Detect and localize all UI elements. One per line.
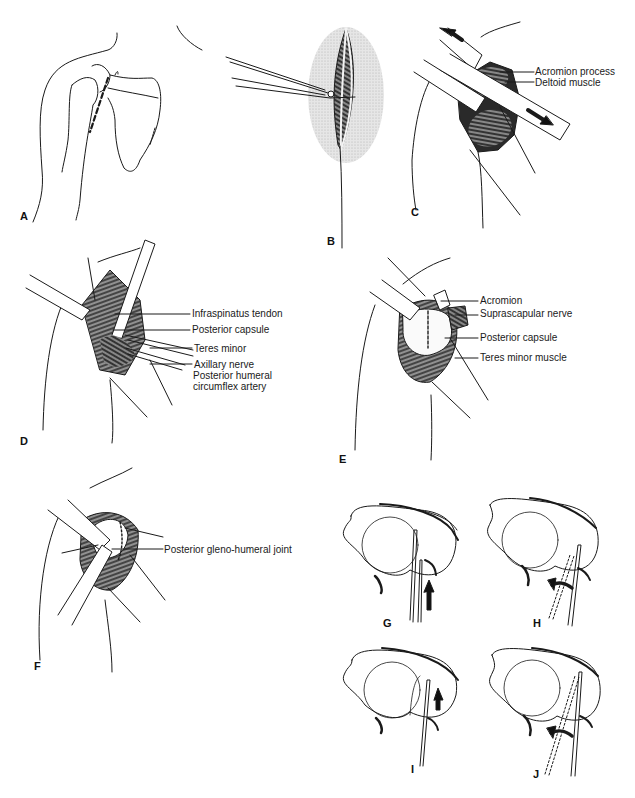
panel-h-drawing: [488, 498, 599, 626]
panel-label-g: G: [383, 617, 392, 629]
panel-d-drawing: [26, 240, 193, 443]
panel-c-drawing: [412, 22, 570, 228]
label-deltoid-muscle: Deltoid muscle: [535, 77, 601, 88]
illustration-canvas: [0, 0, 635, 798]
panel-a-drawing: [33, 26, 202, 222]
panel-j-drawing: [490, 648, 601, 776]
panel-label-b: B: [327, 235, 335, 247]
label-acromion: Acromion: [480, 295, 522, 306]
panel-label-i: I: [411, 763, 414, 775]
panel-e-drawing: [355, 258, 488, 460]
label-posterior-gleno-humeral-joint: Posterior gleno-humeral joint: [164, 544, 292, 555]
panel-label-h: H: [533, 617, 541, 629]
panel-label-d: D: [20, 435, 28, 447]
label-posterior-capsule-e: Posterior capsule: [480, 332, 557, 343]
label-circumflex-artery: circumflex artery: [193, 381, 266, 392]
label-suprascapular-nerve: Suprascapular nerve: [480, 308, 572, 319]
label-acromion-process: Acromion process: [535, 66, 615, 77]
panel-g-drawing: [343, 504, 458, 622]
label-posterior-capsule-d: Posterior capsule: [192, 324, 269, 335]
label-posterior-humeral: Posterior humeral: [193, 370, 272, 381]
panel-label-f: F: [34, 660, 41, 672]
panel-label-a: A: [20, 210, 28, 222]
label-teres-minor: Teres minor: [194, 343, 246, 354]
panel-b-drawing: [226, 27, 384, 248]
panel-label-e: E: [339, 453, 346, 465]
panel-f-drawing: [39, 468, 165, 672]
label-axillary-nerve: Axillary nerve: [194, 359, 254, 370]
label-teres-minor-muscle: Teres minor muscle: [480, 352, 567, 363]
panel-label-j: J: [533, 768, 539, 780]
label-infraspinatus-tendon: Infraspinatus tendon: [192, 308, 283, 319]
panel-label-c: C: [411, 206, 419, 218]
panel-i-drawing: [343, 648, 458, 766]
